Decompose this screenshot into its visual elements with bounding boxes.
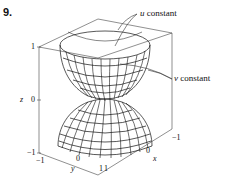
x-tick-1: 1 [104, 165, 108, 173]
u-text: constant [145, 8, 177, 18]
v-constant-label: v constant [174, 74, 210, 83]
y-tick-0: 0 [76, 155, 80, 163]
z-axis-label: z [20, 96, 23, 104]
z-tick-1: 1 [31, 43, 35, 51]
x-tick-0: 0 [146, 147, 150, 155]
z-tick-0: 0 [31, 96, 35, 104]
lower-bowl [58, 99, 152, 158]
z-tick-neg1: −1 [27, 149, 36, 157]
x-tick-neg1: −1 [172, 134, 181, 142]
u-constant-label: u constant [140, 9, 177, 18]
bounding-box [37, 19, 172, 175]
y-tick-neg1: −1 [36, 157, 45, 165]
v-text: constant [178, 73, 210, 83]
x-axis-label: x [153, 155, 157, 163]
y-tick-1: 1 [99, 165, 103, 173]
y-axis-label: y [71, 165, 75, 173]
